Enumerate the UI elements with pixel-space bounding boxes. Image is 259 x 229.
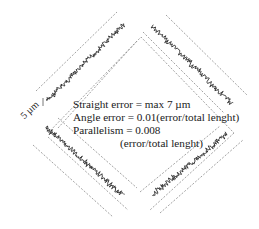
annotation-parallelism-unit: (error/total lenght) bbox=[120, 136, 203, 150]
annotation-angle-error: Angle error = 0.01(error/total lenght) bbox=[73, 110, 239, 124]
annotation-straight-error: Straight error = max 7 µm bbox=[73, 97, 190, 111]
diamond-straightness-diagram: 5 µm Straight error = max 7 µm Angle err… bbox=[0, 0, 259, 229]
annotation-parallelism: Parallelism = 0.008 bbox=[73, 123, 160, 137]
